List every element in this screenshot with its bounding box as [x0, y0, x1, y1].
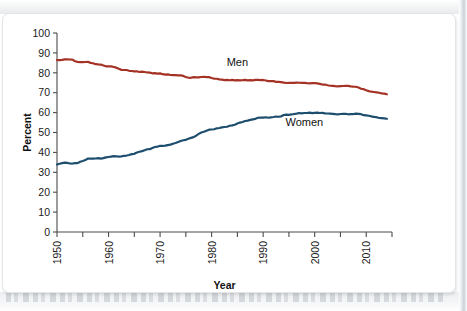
y-axis-title: Percent — [21, 113, 33, 152]
y-axis-tick-label: 90 — [38, 47, 50, 59]
x-axis: 1950196019701980199020002010 — [51, 232, 392, 264]
series-line-women — [57, 113, 387, 165]
x-axis-tick-label: 1980 — [206, 241, 218, 265]
x-axis-tick-label: 1990 — [257, 241, 269, 265]
y-axis-tick-label: 20 — [38, 186, 50, 198]
x-axis-tick-label: 1970 — [154, 241, 166, 265]
line-chart: 0102030405060708090100 19501960197019801… — [0, 0, 467, 311]
y-axis-tick-label: 70 — [38, 86, 50, 98]
y-axis-tick-label: 10 — [38, 206, 50, 218]
x-axis-tick-label: 2010 — [360, 241, 372, 265]
series-label-men: Men — [227, 56, 248, 68]
y-axis-tick-label: 100 — [32, 27, 50, 39]
y-axis-tick-label: 0 — [44, 226, 50, 238]
y-axis-tick-label: 30 — [38, 166, 50, 178]
x-axis-title: Year — [213, 279, 235, 291]
x-axis-tick-label: 2000 — [309, 241, 321, 265]
x-axis-tick-label: 1960 — [103, 241, 115, 265]
y-axis-tick-label: 60 — [38, 106, 50, 118]
series-lines — [57, 59, 387, 164]
chart-svg: 0102030405060708090100 19501960197019801… — [0, 0, 467, 311]
y-axis-tick-label: 80 — [38, 67, 50, 79]
y-axis-tick-label: 40 — [38, 146, 50, 158]
x-axis-tick-label: 1950 — [51, 241, 63, 265]
y-axis-tick-label: 50 — [38, 126, 50, 138]
series-line-men — [57, 59, 387, 94]
series-label-women: Women — [286, 116, 324, 128]
y-axis: 0102030405060708090100 — [32, 27, 57, 238]
